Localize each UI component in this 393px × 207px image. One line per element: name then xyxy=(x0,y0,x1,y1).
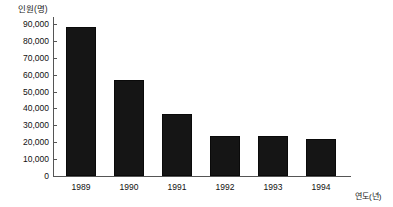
y-tick-mark xyxy=(53,159,57,160)
y-tick-label: 80,000 xyxy=(3,36,49,46)
y-tick-label-wrap: 60,000 xyxy=(0,70,49,80)
y-tick-mark xyxy=(53,58,57,59)
y-tick-label: 70,000 xyxy=(3,53,49,63)
x-axis-line xyxy=(53,176,351,177)
bar-1994 xyxy=(306,139,336,176)
y-tick-label: 90,000 xyxy=(3,19,49,29)
chart-screenshot: 인원(명) 연도(년) 010,00020,00030,00040,00050,… xyxy=(0,0,393,207)
y-tick-mark xyxy=(53,125,57,126)
x-tick-label: 1991 xyxy=(153,182,201,192)
y-tick-label: 40,000 xyxy=(3,103,49,113)
y-tick-mark xyxy=(53,108,57,109)
x-axis-title: 연도(년) xyxy=(355,190,381,201)
y-tick-mark xyxy=(53,92,57,93)
y-tick-label: 10,000 xyxy=(3,154,49,164)
y-tick-mark xyxy=(53,176,57,177)
y-tick-label-wrap: 90,000 xyxy=(0,19,49,29)
y-axis-title: 인원(명) xyxy=(18,2,48,14)
y-tick-mark xyxy=(53,41,57,42)
y-tick-label-wrap: 0 xyxy=(0,171,49,181)
y-tick-label: 60,000 xyxy=(3,70,49,80)
y-tick-label-wrap: 10,000 xyxy=(0,154,49,164)
y-tick-label-wrap: 80,000 xyxy=(0,36,49,46)
x-tick-label: 1990 xyxy=(105,182,153,192)
y-tick-label-wrap: 30,000 xyxy=(0,120,49,130)
y-tick-label-wrap: 50,000 xyxy=(0,87,49,97)
bar-1992 xyxy=(210,136,240,176)
y-tick-label-wrap: 20,000 xyxy=(0,137,49,147)
x-tick-label: 1989 xyxy=(57,182,105,192)
x-tick-label: 1994 xyxy=(297,182,345,192)
bar-1991 xyxy=(162,114,192,176)
y-tick-label-wrap: 70,000 xyxy=(0,53,49,63)
y-tick-label: 20,000 xyxy=(3,137,49,147)
bar-1989 xyxy=(66,27,96,176)
y-tick-label-wrap: 40,000 xyxy=(0,103,49,113)
y-tick-label: 0 xyxy=(3,171,49,181)
bar-chart: 인원(명) 연도(년) 010,00020,00030,00040,00050,… xyxy=(0,0,393,207)
bar-1993 xyxy=(258,136,288,176)
y-tick-mark xyxy=(53,142,57,143)
y-tick-mark xyxy=(53,24,57,25)
y-tick-mark xyxy=(53,75,57,76)
y-tick-label: 30,000 xyxy=(3,120,49,130)
y-tick-label: 50,000 xyxy=(3,87,49,97)
bar-1990 xyxy=(114,80,144,176)
x-tick-label: 1993 xyxy=(249,182,297,192)
x-tick-label: 1992 xyxy=(201,182,249,192)
